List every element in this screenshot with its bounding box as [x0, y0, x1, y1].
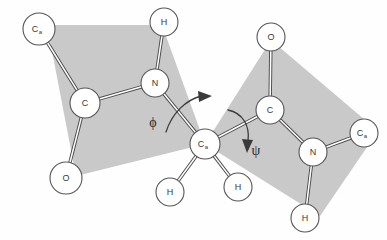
atom-c_right: C: [256, 96, 284, 124]
atom-n_left: N: [141, 69, 169, 97]
peptide-planes: [47, 25, 378, 216]
atom-label-n_left: N: [152, 78, 159, 88]
atom-c_left: C: [70, 88, 100, 118]
atom-ca_left: Ca: [23, 13, 55, 45]
atom-n_right: N: [299, 138, 327, 166]
atom-label-h_bottomright: H: [302, 213, 309, 223]
psi-angle-label: ψ: [252, 143, 261, 158]
atom-h_bl: H: [156, 178, 184, 206]
bond-c_right-o_right: [270, 50, 271, 97]
atom-h_topleft: H: [150, 8, 178, 36]
molecule-diagram-svg: ϕ ψ CaCONHCaHHCONCaH: [0, 0, 387, 240]
atom-o_left: O: [50, 162, 82, 194]
peptide-dihedral-figure: ϕ ψ CaCONHCaHHCONCaH: [0, 0, 387, 240]
atom-label-o_left: O: [62, 173, 69, 183]
atom-h_bc: H: [224, 173, 252, 201]
atom-label-c_right: C: [267, 105, 274, 115]
atom-label-h_bc: H: [235, 182, 242, 192]
phi-arrowhead: [198, 91, 212, 102]
atom-o_right: O: [257, 23, 285, 51]
atom-ca_right: Ca: [350, 119, 378, 147]
atom-label-h_bl: H: [167, 187, 174, 197]
bond-ca_center-h_bl: [178, 155, 197, 181]
bond-ca_center-h_bc: [214, 155, 231, 177]
atom-label-o_right: O: [267, 32, 274, 42]
phi-angle-label: ϕ: [149, 115, 156, 130]
atom-label-h_topleft: H: [161, 17, 168, 27]
atom-ca_center: Ca: [190, 129, 220, 159]
atom-label-n_right: N: [310, 147, 317, 157]
atom-h_bottomright: H: [291, 204, 319, 232]
atom-label-c_left: C: [82, 98, 89, 108]
